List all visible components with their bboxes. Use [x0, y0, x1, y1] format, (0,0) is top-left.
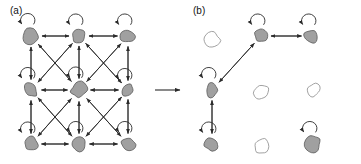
figure-canvas: (a) (b)	[0, 0, 361, 164]
figure-container: (a) (b)	[0, 0, 361, 164]
panel-b-label: (b)	[193, 5, 205, 16]
state-node-node-top-middle-active	[73, 29, 85, 43]
panel-a-label: (a)	[10, 5, 22, 16]
state-node-node-top-middle-active	[255, 29, 268, 41]
